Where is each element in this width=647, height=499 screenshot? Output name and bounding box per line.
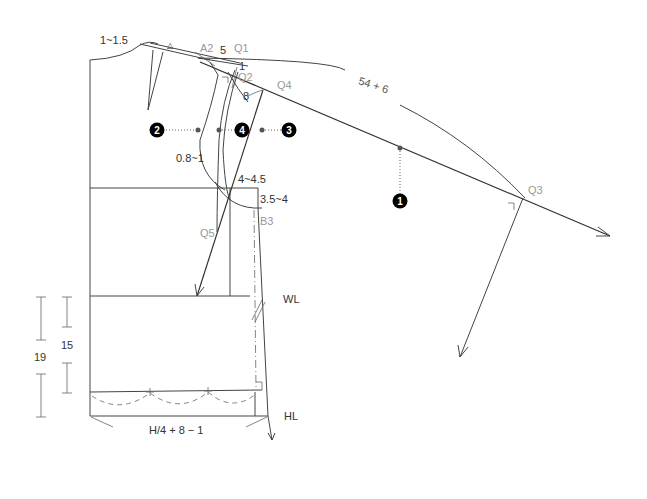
point-1: [398, 146, 403, 151]
hem-bracket-left: [91, 417, 113, 427]
label-B3: B3: [260, 215, 273, 227]
label-WL: WL: [283, 293, 300, 305]
label-Q3: Q3: [528, 184, 543, 196]
label-dim-15: 15: [61, 339, 73, 351]
right-angle-mark-q3: [508, 203, 514, 210]
marker-4: 4: [235, 123, 250, 138]
point-4: [217, 128, 222, 133]
armhole-curve: [200, 62, 225, 190]
label-width-35: 3.5~4: [260, 193, 288, 205]
dim-15-bottom: [62, 363, 72, 393]
label-Q5: Q5: [200, 227, 215, 239]
svg-text:3: 3: [286, 125, 292, 136]
side-seam-guide: [254, 210, 256, 390]
label-dim-19: 19: [34, 351, 46, 363]
point-2: [196, 128, 201, 133]
armhole-lower: [215, 182, 262, 208]
label-cap-length: 54 + 6: [357, 74, 390, 95]
arrow-head-q3: [458, 345, 468, 357]
dart: [148, 50, 163, 110]
label-depth: 0.8~1: [176, 152, 204, 164]
cap-curve-right: [400, 105, 525, 198]
shoulder-line-2: [150, 43, 240, 63]
label-Q4: Q4: [277, 79, 292, 91]
point-3: [260, 128, 265, 133]
svg-text:2: 2: [154, 125, 160, 136]
label-width-4: 4~4.5: [238, 173, 266, 185]
label-triangle: △: [167, 41, 174, 50]
sleeve-top-line: [200, 62, 610, 236]
q3-perp-line: [460, 198, 523, 357]
svg-text:4: 4: [239, 125, 245, 136]
hip-curve: [92, 392, 256, 405]
front-armhole-2: [223, 72, 238, 200]
dim-19-top: [36, 297, 46, 340]
label-Q2: Q2: [238, 71, 253, 83]
front-armhole: [217, 70, 235, 232]
dim-19-bottom: [36, 374, 46, 417]
marker-1: 1: [393, 194, 408, 209]
label-eight: 8: [243, 90, 249, 102]
svg-text:1: 1: [397, 196, 403, 207]
pattern-diagram: 1 2 3 4 1~1.5 △ A2 5 Q1 1 Q2 8 Q4 54 + 6…: [0, 0, 647, 499]
marker-3: 3: [282, 123, 297, 138]
label-HL: HL: [284, 410, 298, 422]
label-hip-formula: H/4 + 8 − 1: [149, 424, 203, 436]
cap-curve-top: [198, 58, 345, 70]
dim-15-top: [62, 297, 72, 327]
label-five: 5: [220, 44, 226, 56]
hip-line: [90, 390, 262, 392]
tick-2: [204, 387, 212, 395]
right-angle-mark-hip: [256, 382, 262, 390]
label-Q1: Q1: [234, 42, 249, 54]
label-A2: A2: [200, 42, 213, 54]
right-angle-mark-a2: [222, 77, 228, 83]
hem-bracket-right: [246, 417, 267, 427]
label-neck-drop: 1~1.5: [100, 34, 128, 46]
marker-2: 2: [150, 123, 165, 138]
